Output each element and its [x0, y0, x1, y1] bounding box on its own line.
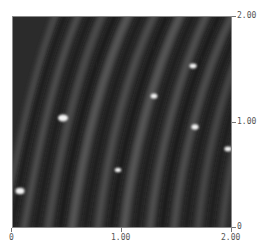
particle-1: [16, 188, 25, 194]
particle-2: [58, 115, 68, 122]
particle-5: [189, 64, 196, 69]
x-tick-1: [121, 228, 122, 232]
y-tick-0: [232, 227, 236, 228]
x-tick-2: [231, 228, 232, 232]
x-tick-label-0: 0: [9, 234, 14, 242]
y-tick-2: [232, 16, 236, 17]
x-tick-0: [11, 228, 12, 232]
particle-6: [191, 124, 198, 130]
x-tick-label-1: 1.00: [111, 234, 130, 242]
y-tick-1: [232, 122, 236, 123]
x-tick-label-2: 2.00: [221, 234, 240, 242]
particle-3: [115, 168, 121, 172]
y-tick-label-2: 2.00: [237, 12, 256, 20]
y-tick-label-1: 1.00: [237, 118, 256, 126]
particle-4: [151, 93, 158, 98]
scan-image: [12, 16, 232, 228]
y-tick-label-0: 0: [237, 223, 242, 231]
particle-7: [224, 147, 231, 152]
terrace-steps: [12, 16, 232, 228]
